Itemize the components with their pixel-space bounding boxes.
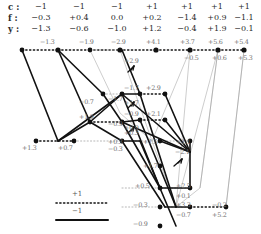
node-label: +0.7 — [58, 144, 73, 152]
node-label: +2.9 — [146, 84, 161, 92]
node-label: +5.2 — [212, 211, 227, 219]
node-label: +0.5 — [135, 182, 150, 190]
node-label: −0.9 — [124, 110, 139, 118]
legend-solid-label: −1 — [72, 207, 82, 215]
node-label: +1.9 — [79, 113, 94, 121]
node-label: +2.1 — [146, 110, 161, 118]
node-label: +2.9 — [124, 57, 139, 65]
node-label: +1.5 — [143, 138, 158, 146]
node-label: +2.5 — [176, 182, 191, 190]
node — [138, 92, 143, 97]
node — [88, 48, 93, 53]
node-label: +1.7 — [124, 99, 139, 107]
node-label: −0.9 — [133, 220, 148, 228]
legend-swatches — [48, 190, 118, 224]
node-label: −0.9 — [108, 120, 123, 128]
node-label: −0.7 — [79, 98, 94, 106]
node-label: −0.2 — [212, 201, 227, 209]
node-label: +5.4 — [234, 38, 249, 46]
node-label: −0.3 — [108, 145, 123, 153]
node — [158, 205, 163, 210]
node-label: −1.7 — [124, 84, 139, 92]
legend: +1 −1 — [48, 190, 118, 224]
node — [241, 47, 246, 52]
node-label: +1.3 — [22, 144, 37, 152]
node — [34, 139, 39, 144]
node — [163, 118, 168, 123]
node — [158, 139, 163, 144]
node-label: +3.7 — [180, 38, 195, 46]
node — [158, 164, 163, 169]
node — [158, 224, 163, 229]
node-label: −1.9 — [79, 38, 94, 46]
node-label: −0.3 — [133, 201, 148, 209]
node — [187, 47, 192, 52]
node-label: +5.3 — [238, 54, 253, 62]
node-label: +0.1 — [176, 192, 191, 200]
node — [153, 47, 158, 52]
node — [117, 47, 122, 52]
node — [138, 118, 143, 123]
node — [20, 48, 25, 53]
node — [55, 47, 60, 52]
node-label: +0.3 — [124, 129, 139, 137]
node — [158, 186, 163, 191]
node-label: −0.5 — [184, 54, 199, 62]
node-label: −0.7 — [176, 211, 191, 219]
node — [215, 47, 220, 52]
node-label: −1.3 — [40, 38, 55, 46]
node-label: −2.1 — [175, 148, 190, 156]
node-label: +1.7 — [143, 162, 158, 170]
node-label: −2.9 — [111, 38, 126, 46]
node-label: −1.7 — [108, 95, 123, 103]
node-label: +5.6 — [208, 38, 223, 46]
node — [163, 92, 168, 97]
node-label: +4.1 — [146, 38, 161, 46]
node-label: +0.6 — [212, 54, 227, 62]
node-label: +3.3 — [176, 201, 191, 209]
node — [101, 92, 106, 97]
trellis-figure: c : −1 −1 −1 +1 +1 +1 +1 f : −0.3 +0.4 0… — [0, 0, 261, 234]
node-label: +1.1 — [176, 138, 191, 146]
node — [72, 139, 77, 144]
